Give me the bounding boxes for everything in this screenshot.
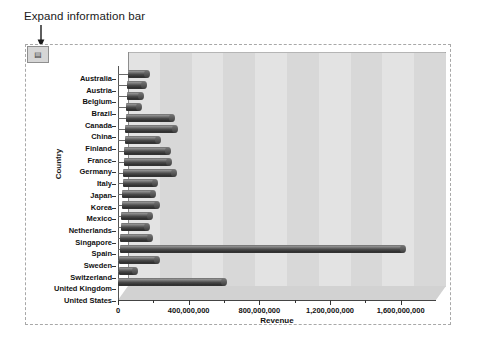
y-axis-tick (112, 289, 116, 290)
x-axis-tick (189, 300, 190, 305)
x-axis-tick (153, 300, 154, 303)
y-axis-category-label: Sweden (84, 262, 112, 270)
y-axis-category-label: Canada (85, 122, 112, 130)
y-axis-tick (112, 184, 116, 185)
bar-leader-line (118, 249, 120, 250)
bar[interactable] (127, 92, 141, 100)
y-axis-category-label: United Kingdom (54, 285, 112, 293)
x-axis-tick (224, 300, 225, 303)
y-axis-tick (112, 301, 116, 302)
x-axis-tick-label: 1,600,000,000 (377, 306, 425, 315)
bar[interactable] (120, 234, 150, 242)
x-axis-tick (401, 300, 402, 305)
x-axis-tick-label: 0 (116, 306, 120, 315)
plot-band (414, 53, 446, 287)
bar[interactable] (124, 147, 168, 155)
bar-leader-line (118, 173, 123, 174)
y-axis-tick (112, 231, 116, 232)
y-axis-category-label: Netherlands (69, 227, 112, 235)
y-axis-tick (112, 161, 116, 162)
y-axis-category-label: Singapore (75, 239, 112, 247)
bar[interactable] (119, 267, 136, 275)
y-axis-tick (112, 126, 116, 127)
bar[interactable] (126, 103, 138, 111)
bar[interactable] (125, 136, 159, 144)
y-axis-category-labels: AustraliaAustriaBelgiumBrazilCanadaChina… (48, 64, 116, 296)
bar[interactable] (124, 158, 169, 166)
bar[interactable] (123, 169, 174, 177)
y-axis-tick (112, 79, 116, 80)
bar[interactable] (128, 70, 147, 78)
x-axis-tick (295, 300, 296, 303)
y-axis-category-label: Belgium (82, 98, 112, 106)
bar-leader-line (118, 85, 127, 86)
y-axis-tick (112, 196, 116, 197)
y-axis-category-label: Switzerland (70, 274, 112, 282)
bar[interactable] (119, 256, 157, 264)
y-axis-category-label: United States (64, 297, 112, 305)
y-axis-category-label: Japan (90, 192, 112, 200)
plot-area: 0400,000,000800,000,0001,200,000,0001,60… (118, 52, 446, 300)
bar[interactable] (127, 81, 144, 89)
y-axis-tick (112, 254, 116, 255)
plot-floor (118, 286, 446, 300)
x-axis-tick-label: 400,000,000 (168, 306, 210, 315)
y-axis-category-label: Korea (91, 204, 112, 212)
bar-leader-line (118, 271, 119, 272)
y-axis-tick (112, 137, 116, 138)
bar-leader-line (118, 74, 128, 75)
y-axis-category-label: Mexico (87, 215, 112, 223)
bar-leader-line (118, 96, 127, 97)
bar-leader-line (118, 129, 125, 130)
x-axis-tick (330, 300, 331, 305)
bar[interactable] (126, 114, 172, 122)
y-axis-tick (112, 172, 116, 173)
y-axis-tick (112, 208, 116, 209)
bar[interactable] (122, 201, 157, 209)
bar-leader-line (118, 140, 125, 141)
annotation-label: Expand information bar (24, 10, 145, 22)
y-axis-category-label: Italy (97, 180, 112, 188)
y-axis-category-label: China (91, 133, 112, 141)
y-axis-tick (112, 219, 116, 220)
x-axis-tick (259, 300, 260, 305)
y-axis-tick (112, 243, 116, 244)
y-axis-category-label: France (87, 157, 112, 165)
y-axis-tick (112, 91, 116, 92)
bar[interactable] (122, 190, 153, 198)
revenue-by-country-chart: Country AustraliaAustriaBelgiumBrazilCan… (30, 50, 448, 322)
y-axis-tick (112, 102, 116, 103)
x-axis-tick-label: 1,200,000,000 (306, 306, 354, 315)
y-axis-category-label: Finland (85, 145, 112, 153)
y-axis-tick (112, 266, 116, 267)
y-axis-tick (112, 278, 116, 279)
y-axis-category-label: Spain (92, 250, 112, 258)
y-axis-category-label: Brazil (92, 110, 112, 118)
bar-leader-line (118, 183, 123, 184)
bar[interactable] (118, 278, 224, 286)
y-axis-tick (112, 114, 116, 115)
x-axis-tick (118, 300, 119, 305)
y-axis-category-label: Australia (80, 75, 112, 83)
bar-leader-line (118, 227, 121, 228)
bar[interactable] (120, 245, 404, 253)
bar-leader-line (118, 238, 120, 239)
bar[interactable] (125, 125, 174, 133)
bar-leader-line (118, 205, 122, 206)
y-axis-tick (112, 149, 116, 150)
x-axis-title: Revenue (118, 316, 436, 325)
bar[interactable] (121, 223, 148, 231)
x-axis-tick (365, 300, 366, 303)
bar-leader-line (118, 118, 126, 119)
x-axis-tick-label: 800,000,000 (238, 306, 280, 315)
screenshot-root: Expand information bar ▤ Country Austral… (0, 0, 477, 343)
bar-leader-line (118, 260, 119, 261)
bar-leader-line (118, 162, 124, 163)
bar[interactable] (123, 179, 155, 187)
bar-leader-line (118, 151, 124, 152)
bar-leader-line (118, 107, 126, 108)
bar[interactable] (121, 212, 150, 220)
bar-leader-line (118, 216, 121, 217)
bar-leader-line (118, 194, 122, 195)
y-axis-category-label: Austria (86, 87, 112, 95)
